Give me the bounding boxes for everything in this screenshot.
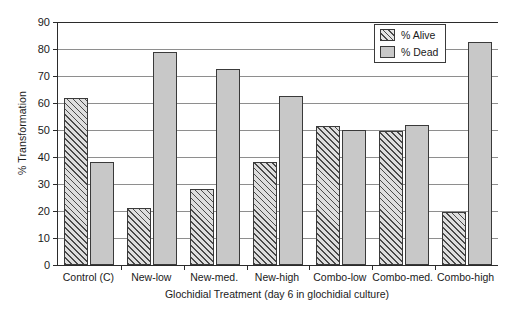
y-axis-tick-label: 0 [44, 259, 50, 271]
y-axis-tick-label: 60 [38, 97, 50, 109]
y-axis-title: % Transformation [14, 0, 30, 265]
gridline [58, 76, 498, 77]
x-axis-tick [372, 265, 373, 270]
y-axis-tick-label: 40 [38, 151, 50, 163]
bar-alive [127, 208, 151, 265]
y-axis-tick [53, 22, 58, 23]
x-axis-title: Glochidial Treatment (day 6 in glochidia… [57, 288, 497, 300]
x-axis-category-label: New-low [131, 271, 171, 283]
bar-dead [468, 42, 492, 265]
gridline [58, 238, 498, 239]
y-axis-tick-label: 10 [38, 232, 50, 244]
y-axis-tick-label: 80 [38, 43, 50, 55]
x-axis-tick [121, 265, 122, 270]
bar-dead [342, 130, 366, 265]
bar-alive [442, 212, 466, 265]
legend-label-dead: % Dead [401, 46, 438, 58]
y-axis-tick [53, 184, 58, 185]
y-axis-tick-label: 30 [38, 178, 50, 190]
y-axis-tick [53, 130, 58, 131]
x-axis-category-label: Combo-med. [372, 271, 433, 283]
gridline [58, 157, 498, 158]
bar-dead [153, 52, 177, 265]
x-axis-category-label: Combo-low [313, 271, 366, 283]
bar-dead [279, 96, 303, 265]
legend-item-alive: % Alive [380, 29, 438, 41]
y-axis-tick [53, 211, 58, 212]
gridline [58, 130, 498, 131]
bar-alive [379, 131, 403, 265]
y-axis-tick [53, 49, 58, 50]
y-axis-title-text: % Transformation [16, 91, 28, 175]
bar-dead [90, 162, 114, 265]
chart-legend: % Alive % Dead [374, 24, 446, 63]
x-axis-category-label: Combo-high [437, 271, 494, 283]
legend-swatch-dead-icon [380, 46, 395, 58]
bar-alive [253, 162, 277, 265]
y-axis-tick [53, 238, 58, 239]
gridline [58, 184, 498, 185]
y-axis-tick-label: 90 [38, 16, 50, 28]
legend-item-dead: % Dead [380, 46, 438, 58]
bar-dead [405, 125, 429, 265]
y-axis-tick-label: 70 [38, 70, 50, 82]
bar-alive [64, 98, 88, 265]
bar-chart: % Transformation 0102030405060708090 Con… [0, 0, 517, 309]
gridline [58, 211, 498, 212]
bar-alive [316, 126, 340, 265]
y-axis-tick [53, 157, 58, 158]
y-axis-tick [53, 265, 58, 266]
y-axis-tick [53, 76, 58, 77]
bar-alive [190, 189, 214, 265]
gridline [58, 22, 498, 23]
x-axis-tick [309, 265, 310, 270]
bar-dead [216, 69, 240, 265]
x-axis-category-label: New-high [255, 271, 299, 283]
x-axis-category-label: New-med. [190, 271, 238, 283]
gridline [58, 103, 498, 104]
legend-swatch-alive-icon [380, 29, 395, 41]
y-axis-tick [53, 103, 58, 104]
x-axis-tick [435, 265, 436, 270]
x-axis-tick [247, 265, 248, 270]
x-axis-category-label: Control (C) [63, 271, 114, 283]
legend-label-alive: % Alive [401, 29, 435, 41]
x-axis-tick [184, 265, 185, 270]
y-axis-tick-label: 20 [38, 205, 50, 217]
y-axis-tick-label: 50 [38, 124, 50, 136]
